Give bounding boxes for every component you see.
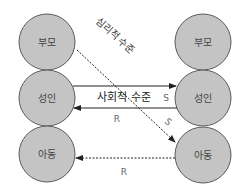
left-adult-label: 성인 [38,93,56,104]
social-response-r-label: R [114,114,120,124]
right-adult-label: 성인 [194,93,212,104]
right-parent-node: 부모 [175,14,231,70]
right-child-node: 아동 [175,127,231,183]
left-child-label: 아동 [38,149,56,160]
left-adult-node: 성인 [19,70,75,126]
psychological-response-r-label: R [121,167,127,177]
left-parent-label: 부모 [38,37,56,48]
right-parent-label: 부모 [194,37,212,48]
psychological-level-label: 심리적 수준 [94,15,137,56]
right-adult-node: 성인 [175,70,231,126]
social-stimulus-s-label: S [163,93,169,103]
transaction-diagram: 부모 성인 아동 부모 성인 아동 사회적 [0,0,248,196]
left-parent-node: 부모 [19,14,75,70]
left-child-node: 아동 [19,126,75,182]
social-level-label: 사회적 수준 [97,91,151,104]
right-child-label: 아동 [194,150,212,161]
psychological-stimulus-s-label: S [163,116,174,127]
